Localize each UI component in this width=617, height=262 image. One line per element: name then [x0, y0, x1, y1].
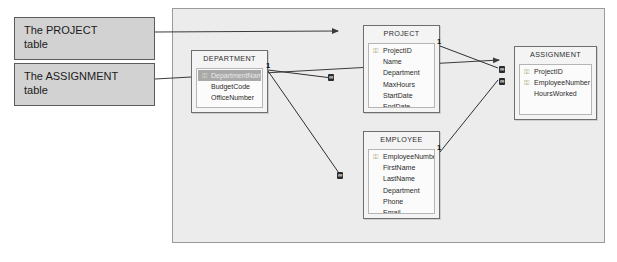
attribute-label: EndDate [383, 103, 410, 108]
entity-department-title: DEPARTMENT [192, 54, 267, 63]
cardinality-many-assignment-project: ∞ [499, 66, 505, 73]
attribute-label: EmployeeNumber [534, 79, 590, 86]
attribute-row[interactable]: FirstName [369, 162, 434, 173]
attribute-row[interactable]: Phone [197, 104, 262, 108]
attribute-row[interactable]: Name [369, 56, 434, 67]
attribute-label: Email [383, 209, 401, 214]
cardinality-many-project: ∞ [328, 74, 334, 81]
attribute-row[interactable]: ⚿ DepartmentName [198, 70, 261, 81]
entity-assignment-attributes: ⚿ ProjectID ⚿ EmployeeNumber HoursWorked [519, 64, 592, 115]
attribute-label: LastName [383, 175, 415, 182]
attribute-label: MaxHours [383, 81, 415, 88]
primary-key-icon: ⚿ [373, 153, 380, 161]
entity-project-attributes: ⚿ ProjectID Name Department MaxHours Sta… [368, 43, 435, 108]
attribute-label: ProjectID [534, 68, 563, 75]
attribute-row[interactable]: ⚿ EmployeeNumber [369, 151, 434, 162]
primary-key-icon: ⚿ [524, 68, 531, 76]
entity-employee-title: EMPLOYEE [364, 135, 439, 144]
attribute-row[interactable]: Department [369, 67, 434, 78]
cardinality-one-project: 1 [437, 38, 441, 45]
attribute-label: Phone [211, 106, 231, 108]
attribute-row[interactable]: ⚿ ProjectID [520, 66, 591, 77]
primary-key-icon: ⚿ [202, 72, 209, 80]
callout-project[interactable]: The PROJECT table [14, 17, 155, 60]
attribute-label: EmployeeNumber [383, 153, 435, 160]
attribute-row[interactable]: StartDate [369, 90, 434, 101]
entity-department-attributes: ⚿ DepartmentName BudgetCode OfficeNumber… [196, 68, 263, 108]
entity-assignment-title: ASSIGNMENT [515, 50, 596, 59]
entity-employee[interactable]: EMPLOYEE ⚿ EmployeeNumber FirstName Last… [363, 131, 440, 219]
entity-department[interactable]: DEPARTMENT ⚿ DepartmentName BudgetCode O… [191, 50, 268, 113]
cardinality-one-department: 1 [266, 62, 270, 69]
attribute-row[interactable]: EndDate [369, 101, 434, 108]
callout-project-line1: The PROJECT [24, 24, 154, 38]
callout-assignment-line1: The ASSIGNMENT [24, 70, 154, 84]
cardinality-many-employee: ∞ [337, 172, 343, 179]
primary-key-icon: ⚿ [373, 47, 380, 55]
attribute-row[interactable]: LastName [369, 173, 434, 184]
attribute-row[interactable]: ⚿ EmployeeNumber [520, 77, 591, 88]
attribute-row[interactable]: Email [369, 207, 434, 214]
attribute-row[interactable]: Department [369, 185, 434, 196]
attribute-label: FirstName [383, 164, 415, 171]
entity-project[interactable]: PROJECT ⚿ ProjectID Name Department MaxH… [363, 25, 440, 113]
attribute-label: HoursWorked [534, 90, 577, 97]
attribute-row[interactable]: ⚿ ProjectID [369, 45, 434, 56]
entity-project-title: PROJECT [364, 29, 439, 38]
cardinality-many-assignment-employee: ∞ [499, 78, 505, 85]
attribute-label: DepartmentName [211, 72, 263, 79]
callout-assignment[interactable]: The ASSIGNMENT table [14, 63, 155, 106]
cardinality-one-employee: 1 [437, 144, 441, 151]
attribute-label: StartDate [383, 92, 413, 99]
attribute-label: BudgetCode [211, 83, 250, 90]
primary-key-icon: ⚿ [524, 79, 531, 87]
attribute-label: Department [383, 187, 420, 194]
attribute-row[interactable]: MaxHours [369, 79, 434, 90]
attribute-row[interactable]: OfficeNumber [197, 92, 262, 103]
callout-project-line2: table [24, 38, 154, 52]
attribute-label: Name [383, 58, 402, 65]
attribute-label: OfficeNumber [211, 94, 254, 101]
entity-employee-attributes: ⚿ EmployeeNumber FirstName LastName Depa… [368, 149, 435, 214]
callout-assignment-line2: table [24, 84, 154, 98]
attribute-label: Phone [383, 198, 403, 205]
attribute-label: ProjectID [383, 47, 412, 54]
entity-assignment[interactable]: ASSIGNMENT ⚿ ProjectID ⚿ EmployeeNumber … [514, 46, 597, 120]
attribute-label: Department [383, 69, 420, 76]
attribute-row[interactable]: HoursWorked [520, 88, 591, 99]
attribute-row[interactable]: BudgetCode [197, 81, 262, 92]
attribute-row[interactable]: Phone [369, 196, 434, 207]
